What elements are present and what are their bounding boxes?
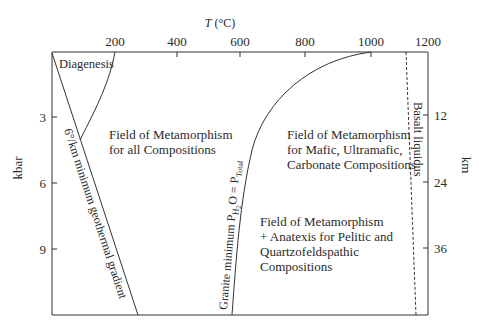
svg-text:Field of Metamorphism: Field of Metamorphism bbox=[109, 127, 233, 142]
field-anatexis: Field of Metamorphism + Anatexis for Pel… bbox=[260, 214, 393, 274]
svg-text:Field of Metamorphism: Field of Metamorphism bbox=[287, 127, 411, 142]
x-tick-600: 600 bbox=[230, 34, 250, 49]
svg-text:Quartzofeldspathic: Quartzofeldspathic bbox=[260, 244, 359, 259]
svg-text:for Mafic, Ultramafic,: for Mafic, Ultramafic, bbox=[287, 142, 403, 157]
granite-minimum-label: Granite minimum PH2O = PTotal bbox=[216, 159, 247, 311]
y-tick-24: 24 bbox=[434, 175, 448, 190]
x-axis-label: T (°C) bbox=[205, 16, 235, 30]
y-axis-left-ticks bbox=[52, 117, 57, 249]
x-tick-400: 400 bbox=[167, 34, 187, 49]
y-tick-6: 6 bbox=[40, 176, 47, 191]
x-tick-1000: 1000 bbox=[358, 34, 384, 49]
metamorphism-diagram: 200 400 600 800 1000 1200 T (°C) 3 6 9 k… bbox=[0, 0, 479, 323]
svg-text:+ Anatexis for Pelitic and: + Anatexis for Pelitic and bbox=[260, 229, 393, 244]
basalt-liquidus-line bbox=[406, 52, 416, 315]
diagenesis-label: Diagenesis bbox=[59, 57, 114, 71]
x-tick-800: 800 bbox=[295, 34, 315, 49]
x-tick-1200: 1200 bbox=[415, 34, 441, 49]
svg-text:Field of Metamorphism: Field of Metamorphism bbox=[260, 214, 384, 229]
y-tick-9: 9 bbox=[40, 242, 47, 257]
y-tick-36: 36 bbox=[434, 241, 448, 256]
y-axis-right-label: km bbox=[459, 157, 474, 174]
x-axis-ticks bbox=[177, 52, 371, 57]
svg-text:for all Compositions: for all Compositions bbox=[109, 142, 216, 157]
x-axis-tick-labels: 200 400 600 800 1000 1200 bbox=[105, 34, 441, 49]
geotherm-line bbox=[52, 53, 138, 315]
y-axis-left-label: kbar bbox=[10, 156, 25, 180]
y-tick-12: 12 bbox=[434, 108, 447, 123]
svg-text:Carbonate Compositions: Carbonate Compositions bbox=[287, 157, 416, 172]
y-axis-right-tick-labels: 12 24 36 bbox=[434, 108, 448, 256]
x-tick-200: 200 bbox=[105, 34, 125, 49]
field-mafic-compositions: Field of Metamorphism for Mafic, Ultrama… bbox=[287, 127, 416, 172]
y-tick-3: 3 bbox=[40, 110, 47, 125]
svg-text:Compositions: Compositions bbox=[260, 259, 332, 274]
y-axis-left-tick-labels: 3 6 9 bbox=[40, 110, 47, 257]
field-all-compositions: Field of Metamorphism for all Compositio… bbox=[109, 127, 233, 157]
granite-minimum-curve bbox=[232, 52, 371, 315]
